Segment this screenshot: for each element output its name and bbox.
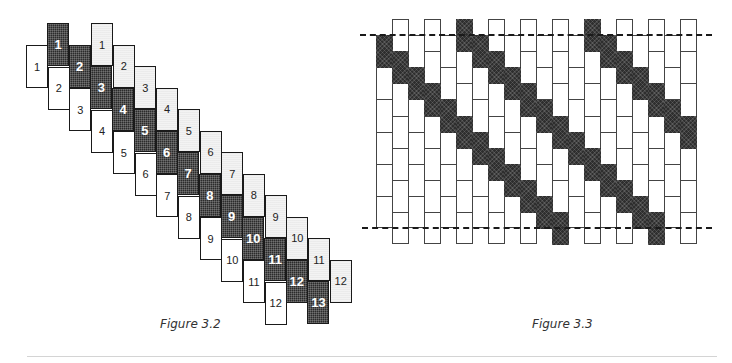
diagonal-dark-cell	[520, 83, 537, 116]
diagonal-dark-cell	[392, 51, 409, 84]
diagonal-dark-cell	[536, 100, 553, 133]
grid-row-line	[472, 99, 489, 100]
grid-row-line	[536, 164, 553, 165]
grid-row-line	[456, 180, 473, 181]
grid-row-line	[568, 67, 585, 68]
grid-row-line	[680, 212, 697, 213]
diagonal-dark-cell	[504, 164, 521, 197]
grid-row-line	[648, 180, 665, 181]
figure-3-3	[0, 0, 732, 363]
grid-row-line	[488, 116, 505, 117]
grid-row-line	[408, 196, 425, 197]
divider-rule	[27, 356, 717, 357]
diagonal-dark-cell	[600, 164, 617, 197]
diagonal-dark-cell	[472, 35, 489, 68]
grid-row-line	[552, 83, 569, 84]
grid-row-line	[440, 67, 457, 68]
bottom-dashed-line	[362, 227, 712, 229]
grid-row-line	[520, 51, 537, 52]
diagonal-dark-cell	[504, 67, 521, 100]
grid-row-line	[552, 180, 569, 181]
grid-row-line	[584, 212, 601, 213]
grid-row-line	[616, 116, 633, 117]
grid-row-line	[408, 164, 425, 165]
diagonal-dark-cell	[616, 180, 633, 213]
diagonal-dark-cell	[536, 196, 553, 229]
figure-3-2-caption: Figure 3.2	[160, 317, 221, 331]
grid-row-line	[632, 164, 649, 165]
grid-column	[584, 19, 601, 244]
grid-row-line	[664, 164, 681, 165]
diagonal-dark-cell	[648, 83, 665, 116]
diagonal-dark-cell	[520, 180, 537, 213]
diagonal-dark-cell	[680, 116, 697, 149]
grid-row-line	[568, 99, 585, 100]
grid-row-line	[456, 212, 473, 213]
grid-row-line	[376, 164, 393, 165]
grid-row-line	[376, 132, 393, 133]
grid-row-line	[392, 148, 409, 149]
grid-row-line	[440, 196, 457, 197]
grid-column	[648, 19, 665, 244]
diagonal-dark-cell	[632, 196, 649, 229]
grid-row-line	[664, 67, 681, 68]
grid-row-line	[680, 180, 697, 181]
diagonal-dark-cell	[632, 67, 649, 100]
diagonal-dark-cell	[440, 99, 457, 132]
grid-row-line	[680, 83, 697, 84]
diagonal-dark-cell	[600, 35, 617, 68]
grid-column	[424, 19, 441, 244]
diagonal-dark-cell	[552, 116, 569, 149]
grid-row-line	[680, 51, 697, 52]
grid-row-line	[520, 148, 537, 149]
diagonal-dark-cell	[472, 132, 489, 165]
grid-row-line	[424, 212, 441, 213]
grid-row-line	[424, 180, 441, 181]
grid-row-line	[424, 51, 441, 52]
diagonal-dark-cell	[584, 148, 601, 181]
grid-row-line	[376, 196, 393, 197]
grid-row-line	[456, 83, 473, 84]
grid-row-line	[648, 148, 665, 149]
diagonal-dark-cell	[424, 83, 441, 116]
grid-row-line	[440, 164, 457, 165]
grid-row-line	[424, 148, 441, 149]
grid-row-line	[584, 116, 601, 117]
grid-row-line	[472, 196, 489, 197]
grid-row-line	[648, 51, 665, 52]
grid-row-line	[664, 196, 681, 197]
diagonal-dark-cell	[488, 148, 505, 181]
diagonal-dark-cell	[488, 51, 505, 84]
grid-row-line	[392, 180, 409, 181]
grid-row-line	[392, 212, 409, 213]
grid-row-line	[504, 132, 521, 133]
grid-row-line	[488, 212, 505, 213]
diagonal-dark-cell	[616, 51, 633, 84]
grid-row-line	[408, 132, 425, 133]
diagonal-dark-cell	[456, 116, 473, 149]
figure-3-3-caption: Figure 3.3	[532, 317, 593, 331]
grid-row-line	[632, 132, 649, 133]
grid-row-line	[536, 67, 553, 68]
grid-row-line	[600, 132, 617, 133]
diagonal-dark-cell	[376, 35, 393, 68]
diagonal-dark-cell	[664, 100, 681, 133]
grid-row-line	[616, 148, 633, 149]
grid-row-line	[552, 51, 569, 52]
grid-row-line	[584, 83, 601, 84]
top-dashed-line	[360, 34, 712, 36]
grid-row-line	[600, 99, 617, 100]
grid-row-line	[392, 116, 409, 117]
diagonal-dark-cell	[568, 132, 585, 165]
grid-row-line	[568, 196, 585, 197]
grid-row-line	[376, 99, 393, 100]
diagonal-dark-cell	[408, 67, 425, 100]
